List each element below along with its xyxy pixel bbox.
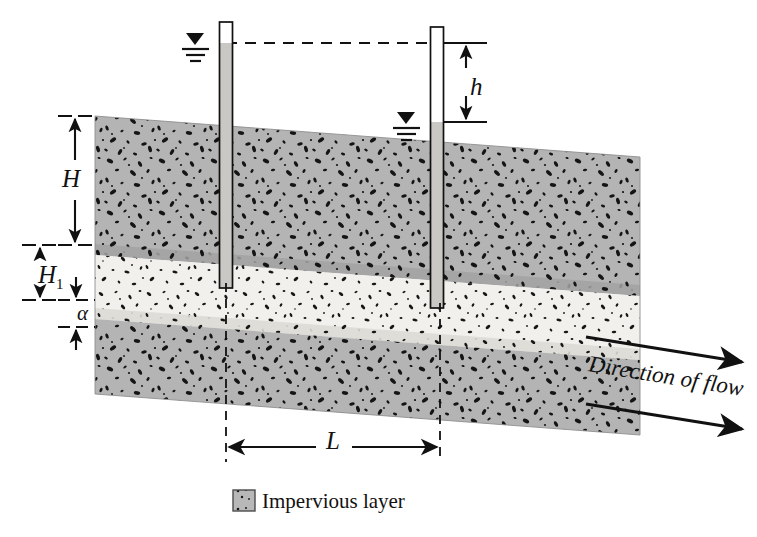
diagram-canvas: [0, 0, 757, 537]
permeability-diagram: H H1 α h L Direction of flow Impervious …: [0, 0, 757, 537]
legend-label: Impervious layer: [262, 489, 405, 514]
label-H1-subscript: 1: [56, 276, 64, 292]
label-L: L: [326, 428, 340, 453]
impervious-layer-swatch: [233, 490, 255, 511]
left-standpipe: [220, 22, 233, 288]
water-table-symbol-left: [182, 33, 209, 61]
label-h: h: [470, 74, 483, 99]
label-H1-base: H: [38, 261, 56, 288]
label-H1: H1: [38, 262, 64, 292]
label-H: H: [62, 166, 80, 191]
water-table-symbol-right: [393, 112, 420, 140]
right-standpipe: [431, 27, 444, 308]
label-alpha: α: [77, 303, 88, 324]
